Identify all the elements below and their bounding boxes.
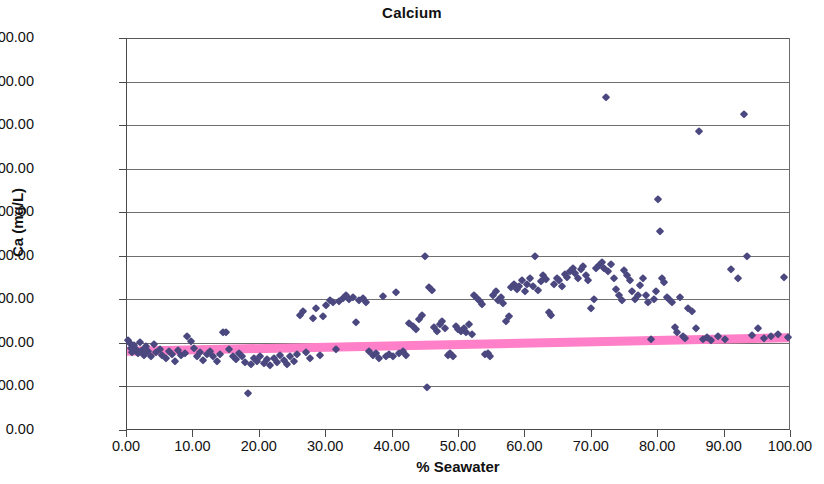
x-tick-label: 100.00 bbox=[745, 438, 824, 454]
gridline bbox=[127, 299, 789, 300]
data-point bbox=[587, 304, 595, 312]
data-point bbox=[636, 281, 644, 289]
y-tick-mark bbox=[119, 386, 126, 387]
gridline bbox=[127, 38, 789, 39]
data-point bbox=[688, 307, 696, 315]
y-tick-label: 0.00 bbox=[0, 421, 34, 437]
data-point bbox=[784, 333, 792, 341]
data-point bbox=[654, 195, 662, 203]
gridline bbox=[127, 386, 789, 387]
x-tick-mark bbox=[657, 430, 658, 437]
plot-area bbox=[126, 38, 790, 430]
gridline bbox=[127, 82, 789, 83]
data-point bbox=[547, 311, 555, 319]
data-point bbox=[585, 276, 593, 284]
data-point bbox=[312, 304, 320, 312]
data-point bbox=[332, 345, 340, 353]
y-tick-label: 400.00 bbox=[0, 334, 34, 350]
trend-line bbox=[127, 38, 789, 429]
x-tick-mark bbox=[259, 430, 260, 437]
data-point bbox=[423, 383, 431, 391]
y-tick-label: 800.00 bbox=[0, 247, 34, 263]
data-point bbox=[774, 330, 782, 338]
data-point bbox=[574, 274, 582, 282]
x-tick-mark bbox=[790, 430, 791, 437]
y-tick-label: 1000.00 bbox=[0, 203, 34, 219]
data-point bbox=[727, 265, 735, 273]
data-point bbox=[412, 325, 420, 333]
data-point bbox=[392, 288, 400, 296]
y-tick-label: 1800.00 bbox=[0, 29, 34, 45]
data-point bbox=[604, 267, 612, 275]
data-point bbox=[171, 357, 179, 365]
gridline bbox=[127, 125, 789, 126]
data-point bbox=[656, 227, 664, 235]
gridline bbox=[127, 212, 789, 213]
data-point bbox=[695, 127, 703, 135]
data-point bbox=[419, 311, 427, 319]
x-tick-mark bbox=[192, 430, 193, 437]
y-tick-label: 1400.00 bbox=[0, 116, 34, 132]
y-tick-mark bbox=[119, 343, 126, 344]
data-point bbox=[531, 252, 539, 260]
y-tick-mark bbox=[119, 169, 126, 170]
data-point bbox=[590, 295, 598, 303]
x-tick-mark bbox=[591, 430, 592, 437]
chart-title: Calcium bbox=[0, 4, 824, 21]
y-tick-mark bbox=[119, 299, 126, 300]
data-point bbox=[244, 389, 252, 397]
y-tick-mark bbox=[119, 256, 126, 257]
x-axis-title: % Seawater bbox=[126, 458, 790, 475]
data-point bbox=[558, 282, 566, 290]
data-point bbox=[433, 327, 441, 335]
gridline bbox=[127, 343, 789, 344]
data-point bbox=[660, 278, 668, 286]
data-point bbox=[610, 274, 618, 282]
y-tick-label: 200.00 bbox=[0, 377, 34, 393]
data-point bbox=[402, 351, 410, 359]
data-point bbox=[734, 274, 742, 282]
data-point bbox=[316, 351, 324, 359]
data-point bbox=[681, 334, 689, 342]
gridline bbox=[127, 256, 789, 257]
data-point bbox=[780, 273, 788, 281]
x-tick-mark bbox=[325, 430, 326, 437]
data-point bbox=[740, 110, 748, 118]
data-point bbox=[162, 354, 170, 362]
x-tick-mark bbox=[524, 430, 525, 437]
data-point bbox=[652, 287, 660, 295]
data-point bbox=[521, 287, 529, 295]
data-point bbox=[309, 315, 317, 323]
data-point bbox=[749, 331, 757, 339]
y-tick-mark bbox=[119, 125, 126, 126]
data-point bbox=[754, 324, 762, 332]
data-point bbox=[319, 312, 327, 320]
y-tick-label: 1200.00 bbox=[0, 160, 34, 176]
gridline bbox=[127, 169, 789, 170]
data-point bbox=[579, 262, 587, 270]
x-tick-mark bbox=[126, 430, 127, 437]
data-point bbox=[743, 252, 751, 260]
data-point bbox=[486, 352, 494, 360]
x-tick-mark bbox=[392, 430, 393, 437]
x-tick-mark bbox=[458, 430, 459, 437]
x-tick-mark bbox=[724, 430, 725, 437]
data-point bbox=[421, 252, 429, 260]
data-point bbox=[441, 324, 449, 332]
data-point bbox=[602, 93, 610, 101]
data-point bbox=[721, 335, 729, 343]
data-point bbox=[626, 276, 634, 284]
y-tick-label: 1600.00 bbox=[0, 73, 34, 89]
data-point bbox=[500, 299, 508, 307]
y-tick-label: 600.00 bbox=[0, 290, 34, 306]
data-point bbox=[692, 324, 700, 332]
data-point bbox=[352, 318, 360, 326]
y-tick-mark bbox=[119, 212, 126, 213]
y-tick-mark bbox=[119, 38, 126, 39]
data-point bbox=[647, 335, 655, 343]
scatter-chart: Calcium Ca (mg/L) % Seawater 0.00200.004… bbox=[0, 0, 824, 484]
data-point bbox=[478, 300, 486, 308]
y-tick-mark bbox=[119, 82, 126, 83]
data-point bbox=[468, 330, 476, 338]
data-point bbox=[449, 352, 457, 360]
